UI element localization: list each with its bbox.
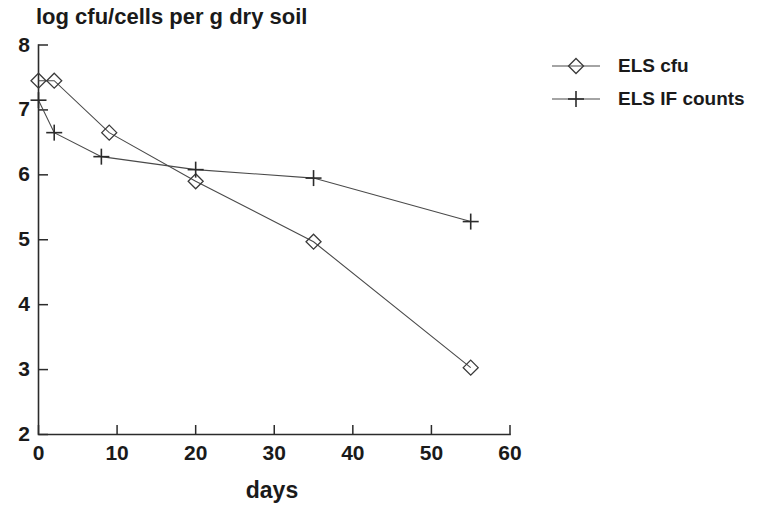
y-tick-label: 5 xyxy=(18,227,30,250)
x-tick-label: 0 xyxy=(33,441,45,464)
y-tick-label: 2 xyxy=(18,422,30,445)
x-tick-label: 50 xyxy=(420,441,443,464)
y-tick-label: 7 xyxy=(18,97,30,120)
line-chart: log cfu/cells per g dry soil 2345678 010… xyxy=(0,0,763,510)
chart-background xyxy=(0,0,763,510)
x-tick-label: 20 xyxy=(184,441,207,464)
y-tick-label: 3 xyxy=(18,357,30,380)
y-tick-label: 8 xyxy=(18,33,30,56)
x-tick-label: 60 xyxy=(498,441,521,464)
x-axis-label: days xyxy=(246,477,298,503)
x-tick-label: 40 xyxy=(341,441,364,464)
x-tick-label: 10 xyxy=(105,441,128,464)
y-tick-label: 4 xyxy=(18,292,30,315)
legend-label: ELS cfu xyxy=(618,55,689,76)
chart-figure: log cfu/cells per g dry soil 2345678 010… xyxy=(0,0,763,510)
y-tick-label: 6 xyxy=(18,162,30,185)
legend-label: ELS IF counts xyxy=(618,88,745,109)
x-tick-label: 30 xyxy=(263,441,286,464)
chart-title: log cfu/cells per g dry soil xyxy=(36,4,307,29)
